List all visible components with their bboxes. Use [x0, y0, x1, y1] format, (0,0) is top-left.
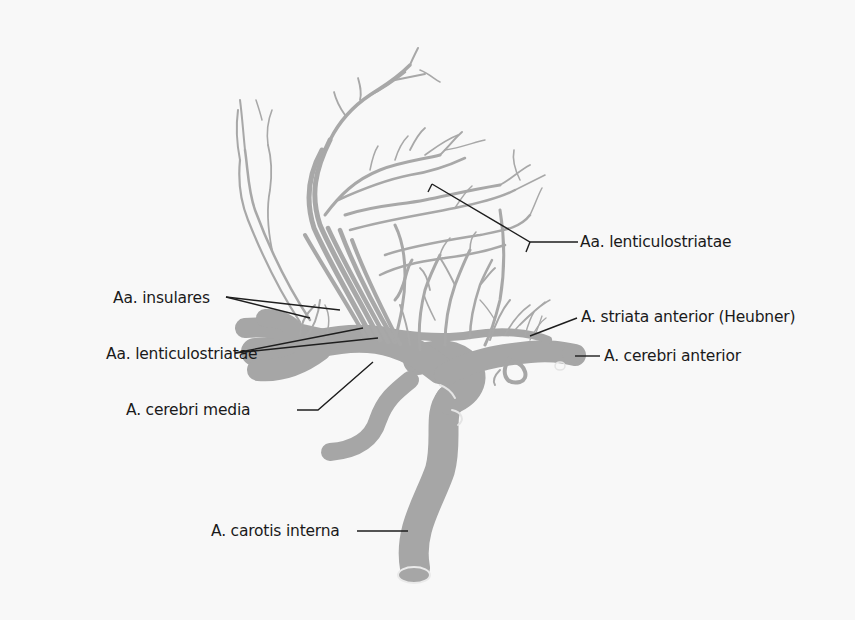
- label-aa-insulares: Aa. insulares: [113, 289, 210, 307]
- label-aa-lenticulostriatae-lower: Aa. lenticulostriatae: [106, 345, 257, 363]
- label-a-striata-anterior: A. striata anterior (Heubner): [581, 308, 795, 326]
- label-aa-lenticulostriatae-upper: Aa. lenticulostriatae: [580, 233, 731, 251]
- label-a-cerebri-media: A. cerebri media: [126, 401, 250, 419]
- label-a-cerebri-anterior: A. cerebri anterior: [604, 347, 741, 365]
- carotid-cut-end: [398, 567, 430, 583]
- label-a-carotis-interna: A. carotis interna: [211, 522, 340, 540]
- anatomy-figure: Aa. lenticulostriatae Aa. insulares Aa. …: [0, 0, 855, 620]
